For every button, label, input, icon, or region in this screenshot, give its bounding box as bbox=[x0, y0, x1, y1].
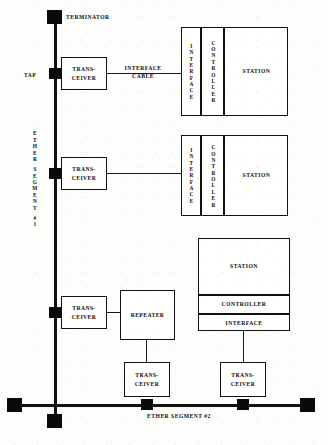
terminator-label: TERMINATOR bbox=[66, 13, 110, 21]
station-3-label: STATION bbox=[198, 262, 290, 270]
terminator-top bbox=[47, 10, 62, 24]
station-2-label: STATION bbox=[225, 171, 288, 179]
seg1-char: 1 bbox=[34, 221, 37, 227]
repeater-box[interactable]: REPEATER bbox=[120, 290, 175, 340]
ctl-char: R bbox=[211, 97, 215, 103]
transceiver-repeater-lower[interactable]: TRANS- CEIVER bbox=[124, 362, 170, 397]
station-3-interface-divider bbox=[198, 313, 290, 315]
station-3-controller-label: CONTROLLER bbox=[198, 300, 290, 308]
ctl-char: R bbox=[211, 202, 215, 208]
interface-cable-label: INTERFACE CABLE bbox=[112, 64, 174, 81]
transceiver-label: TRANS- CEIVER bbox=[72, 65, 96, 81]
ether-segment-1-label: E T H E R S E G M E N T # 1 bbox=[30, 118, 40, 240]
if-char: E bbox=[190, 198, 194, 204]
tap-marker-3 bbox=[49, 307, 61, 318]
station-2-interface-label: I N T E R F A C E bbox=[183, 140, 200, 211]
station-3-interface-label: INTERFACE bbox=[198, 319, 290, 327]
transceiver-repeater-upper[interactable]: TRANS- CEIVER bbox=[61, 296, 107, 329]
terminator-segment1-bottom bbox=[47, 414, 62, 428]
repeater-downlink-cable bbox=[146, 340, 147, 362]
tap-marker-5 bbox=[237, 399, 249, 410]
station-1-label: STATION bbox=[225, 67, 288, 75]
if-char: E bbox=[190, 94, 194, 100]
transceiver-label: TRANS- CEIVER bbox=[72, 165, 96, 181]
station-3-outer bbox=[198, 238, 290, 331]
repeater-uplink-cable bbox=[107, 312, 120, 313]
interface-cable-2 bbox=[107, 173, 182, 174]
network-topology-diagram: TERMINATOR E T H E R S E G M E N T # 1 T… bbox=[0, 0, 328, 445]
transceiver-label: TRANS- CEIVER bbox=[135, 371, 159, 387]
transceiver-station-3[interactable]: TRANS- CEIVER bbox=[220, 362, 266, 397]
repeater-label: REPEATER bbox=[131, 311, 165, 319]
station-1-interface-label: I N T E R F A C E bbox=[183, 34, 200, 109]
station-2-interface-divider bbox=[200, 135, 202, 216]
station-3-controller-divider bbox=[198, 294, 290, 296]
seg1-char: T bbox=[33, 205, 37, 211]
interface-cable-3 bbox=[243, 331, 244, 362]
terminator-segment2-right bbox=[300, 398, 315, 412]
tap-marker-2 bbox=[49, 168, 61, 179]
ether-segment-2-label: ETHER SEGMENT #2 bbox=[124, 412, 234, 420]
tap-marker-4 bbox=[141, 399, 153, 410]
tap-label: TAP bbox=[24, 71, 36, 79]
station-1-interface-divider bbox=[200, 27, 202, 116]
terminator-segment2-left bbox=[7, 398, 22, 412]
station-1-controller-label: C O N T R O L L E R bbox=[204, 31, 223, 112]
station-2-controller-label: C O N T R O L L E R bbox=[204, 138, 223, 214]
tap-marker-1 bbox=[49, 68, 61, 79]
seg1-char: R bbox=[33, 156, 37, 162]
transceiver-top[interactable]: TRANS- CEIVER bbox=[61, 57, 107, 90]
transceiver-label: TRANS- CEIVER bbox=[72, 304, 96, 320]
transceiver-label: TRANS- CEIVER bbox=[231, 371, 255, 387]
ether-segment-2-bus bbox=[14, 404, 308, 407]
transceiver-middle[interactable]: TRANS- CEIVER bbox=[61, 157, 107, 190]
